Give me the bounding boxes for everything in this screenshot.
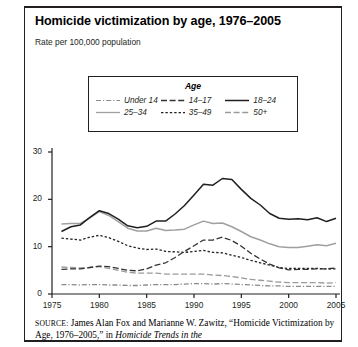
x-tick-label: 1990 [177,300,211,310]
x-tick-label: 2005 [319,300,353,310]
plot-area: 0102030 1975198019851990199520002005 [0,0,358,347]
y-tick-label: 20 [22,193,42,203]
x-tick-label: 1985 [130,300,164,310]
source-publication: Homicide Trends in the [115,330,202,340]
x-tick-label: 1975 [35,300,69,310]
series-line [61,237,336,271]
figure-panel: Homicide victimization by age, 1976–2005… [0,0,358,347]
y-tick-label: 30 [22,146,42,156]
y-tick-label: 0 [22,288,42,298]
line-chart-svg [0,0,358,347]
source-prefix: SOURCE: [35,319,68,328]
series-line [61,212,336,248]
source-note: SOURCE: James Alan Fox and Marianne W. Z… [35,318,335,341]
series-line [61,284,336,287]
x-tick-label: 1995 [224,300,258,310]
x-tick-label: 1980 [82,300,116,310]
series-line [61,235,336,269]
source-line-1: James Alan Fox and Marianne W. Zawitz, “… [68,318,269,328]
y-tick-label: 10 [22,241,42,251]
x-tick-label: 2000 [272,300,306,310]
